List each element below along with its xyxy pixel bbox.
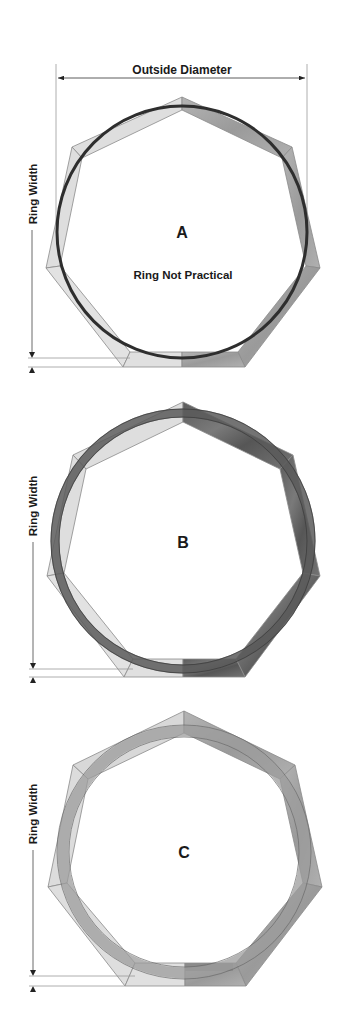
diagram-letter-b: B: [177, 534, 189, 551]
ring-not-practical-note: Ring Not Practical: [133, 269, 232, 281]
ring-diagrams-canvas: Outside Diameter A Ring Not Practical: [0, 0, 340, 1011]
ring-width-label-b: Ring Width: [27, 476, 39, 537]
diagram-b: B Ring Width: [27, 402, 320, 683]
ring-width-label-a: Ring Width: [27, 164, 39, 225]
diagram-letter-a: A: [176, 224, 188, 241]
diagram-c: C Ring Width: [27, 711, 322, 992]
ring-width-label-c: Ring Width: [27, 784, 39, 845]
outside-diameter-label: Outside Diameter: [132, 63, 232, 77]
diagram-letter-c: C: [178, 844, 190, 861]
diagram-a: Outside Diameter A Ring Not Practical: [27, 63, 320, 373]
